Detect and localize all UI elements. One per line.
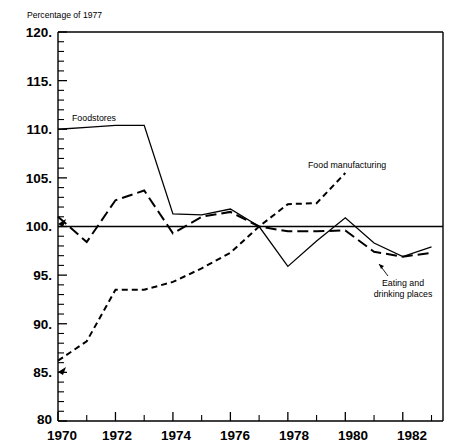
chart-container: Percentage of 1977 120. 115. 110. 105. 1…	[0, 0, 459, 446]
annotation-food-manufacturing: Food manufacturing	[308, 160, 386, 170]
axis-entry-arrows	[58, 219, 66, 375]
series-line-eating-and-drinking-places	[58, 191, 432, 257]
x-tick-label-1982: 1982	[397, 428, 427, 443]
annotation-arrowhead-eating	[379, 264, 384, 269]
y-tick-label-95: 95.	[33, 268, 52, 283]
y-tick-label-110: 110.	[26, 122, 52, 137]
y-tick-label-85: 85.	[33, 365, 52, 380]
y-tick-label-90: 90.	[33, 317, 52, 332]
chart-title: Percentage of 1977	[27, 10, 102, 20]
x-tick-label-1972: 1972	[102, 428, 132, 443]
annotation-label-foodstores: Foodstores	[72, 113, 117, 123]
entry-arrow-lower	[58, 367, 66, 375]
x-axis-ticks	[58, 412, 432, 421]
series-line-foodstores	[58, 125, 432, 266]
y-axis-labels: 120. 115. 110. 105. 100. 95. 90. 85. 80	[26, 25, 52, 427]
x-axis-labels: 1970 1972 1974 1976 1978 1980 1982	[47, 428, 427, 443]
x-tick-label-1978: 1978	[279, 428, 310, 443]
annotation-eating-and-drinking-places: Eating and drinking places	[374, 264, 433, 299]
x-tick-label-1970: 1970	[47, 428, 77, 443]
line-chart: Percentage of 1977 120. 115. 110. 105. 1…	[0, 0, 459, 446]
annotation-foodstores: Foodstores	[72, 113, 117, 123]
annotation-label-eating-line1: Eating and	[382, 278, 424, 288]
annotation-label-food-manufacturing: Food manufacturing	[308, 160, 386, 170]
y-tick-label-105: 105.	[26, 171, 52, 186]
y-tick-label-120: 120.	[26, 25, 52, 40]
y-tick-label-80: 80	[37, 412, 52, 427]
x-tick-label-1976: 1976	[220, 428, 251, 443]
annotation-label-eating-line2: drinking places	[374, 289, 433, 299]
x-tick-label-1974: 1974	[161, 428, 192, 443]
series-line-food-manufacturing	[58, 173, 345, 361]
y-tick-label-115: 115.	[26, 74, 52, 89]
y-tick-label-100: 100.	[26, 219, 52, 234]
x-tick-label-1980: 1980	[338, 428, 368, 443]
